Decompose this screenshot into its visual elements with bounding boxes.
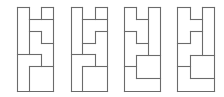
figure-1 xyxy=(18,8,54,92)
figure-3 xyxy=(125,8,161,92)
figure-2 xyxy=(72,8,108,92)
dissection-diagram xyxy=(0,0,224,97)
figure-4 xyxy=(178,8,215,92)
